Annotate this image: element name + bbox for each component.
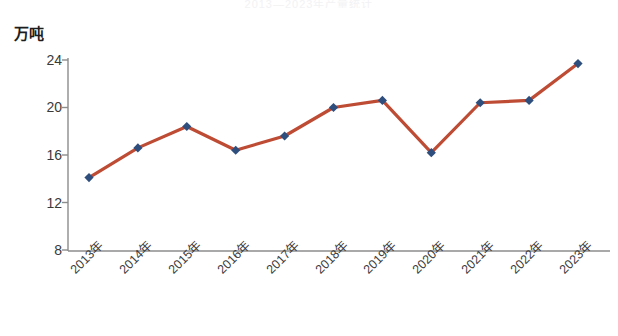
series-line-path xyxy=(89,64,578,178)
series-polyline xyxy=(89,64,578,178)
chart-plot-area: 2013年: 14.12014年: 16.62015年: 18.42016年: … xyxy=(0,0,618,336)
series-markers: 2013年: 14.12014年: 16.62015年: 18.42016年: … xyxy=(84,59,582,182)
y-axis-ticks xyxy=(62,60,68,250)
line-chart: 2013—2023年产量统计 万吨 24 20 16 12 8 2013年: 1… xyxy=(0,0,618,336)
axis-lines xyxy=(68,58,610,251)
